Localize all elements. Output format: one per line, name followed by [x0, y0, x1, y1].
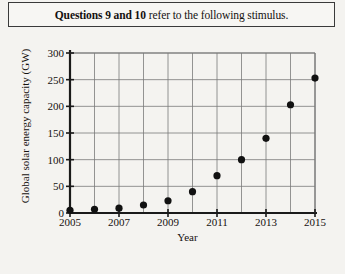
data-point — [66, 207, 73, 214]
question-stimulus-callout: Questions 9 and 10 refer to the followin… — [8, 2, 335, 27]
data-point — [115, 205, 122, 212]
question-numbers-label: Questions 9 and 10 — [55, 9, 146, 21]
data-point — [189, 188, 196, 195]
stimulus-instruction-label: refer to the following stimulus. — [146, 9, 288, 21]
data-point — [287, 101, 294, 108]
solar-capacity-chart: Global solar energy capacity (GW) Year 0… — [0, 34, 345, 274]
data-point — [140, 201, 147, 208]
data-point — [262, 135, 269, 142]
data-point — [238, 156, 245, 163]
data-point — [213, 172, 220, 179]
data-point — [311, 74, 318, 81]
page-title: Questions 9 and 10 refer to the followin… — [55, 9, 289, 21]
data-point — [91, 206, 98, 213]
plot-area — [0, 34, 345, 274]
data-point — [164, 197, 171, 204]
plot-svg — [0, 34, 345, 274]
